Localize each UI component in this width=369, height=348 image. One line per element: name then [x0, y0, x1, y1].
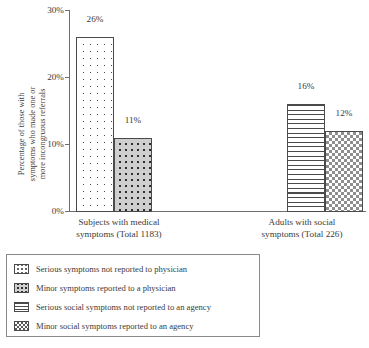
y-tick-label-20: 20% [30, 72, 64, 82]
x-category-label-medical: Subjects with medical symptoms (Total 11… [44, 217, 194, 240]
legend-label: Serious social symptoms not reported to … [36, 302, 211, 312]
legend: Serious symptoms not reported to physici… [6, 254, 260, 337]
bar-value-label-11: 11% [114, 115, 152, 125]
y-tick-mark-20 [65, 77, 69, 78]
bar-minor-social-reported[interactable] [325, 131, 363, 212]
legend-label: Serious symptoms not reported to physici… [36, 264, 187, 274]
legend-label: Minor symptoms reported to a physician [36, 283, 176, 293]
y-axis-tick-labels: 30% 20% 10% 0% [26, 0, 64, 250]
x-category-label-social: Adults with social symptoms (Total 226) [236, 217, 368, 240]
bar-value-label-12: 12% [325, 108, 363, 118]
y-tick-label-30: 30% [30, 5, 64, 15]
y-tick-label-10: 10% [30, 139, 64, 149]
y-tick-mark-10 [65, 144, 69, 145]
bar-serious-social-not-reported[interactable] [287, 104, 325, 212]
legend-item-serious-social-not-reported[interactable]: Serious social symptoms not reported to … [14, 299, 211, 314]
bar-minor-symptoms-reported[interactable] [114, 138, 152, 212]
legend-swatch-grey-dots-icon [14, 283, 29, 293]
bar-value-label-26: 26% [76, 14, 114, 24]
legend-item-minor-symptoms-reported[interactable]: Minor symptoms reported to a physician [14, 280, 176, 295]
y-tick-mark-30 [65, 10, 69, 11]
legend-swatch-sparse-dots-icon [14, 264, 29, 274]
legend-label: Minor social symptoms reported to an age… [36, 321, 194, 331]
bar-chart: Percentage of those with symptoms who ma… [0, 0, 369, 250]
y-tick-label-0: 0% [30, 206, 64, 216]
plot-area [70, 10, 366, 212]
legend-item-serious-symptoms-not-reported[interactable]: Serious symptoms not reported to physici… [14, 261, 187, 276]
bar-value-label-16: 16% [287, 81, 325, 91]
legend-swatch-checkerboard-icon [14, 321, 29, 331]
bar-serious-symptoms-not-reported[interactable] [76, 37, 114, 212]
legend-item-minor-social-reported[interactable]: Minor social symptoms reported to an age… [14, 318, 194, 333]
legend-swatch-horizontal-lines-icon [14, 302, 29, 312]
y-tick-mark-0 [65, 211, 69, 212]
